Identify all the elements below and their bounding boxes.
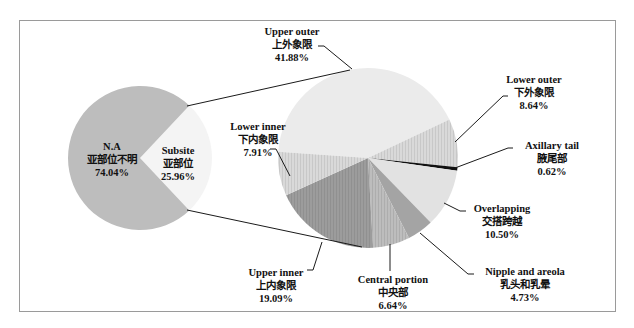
label-lower-outer-pct: 8.64% [494, 99, 574, 112]
label-nipple-areola-en: Nipple and areola [470, 265, 580, 278]
label-overlapping-pct: 10.50% [462, 228, 542, 241]
label-lower-outer-cn: 下外象限 [494, 86, 574, 99]
label-axillary-tail-pct: 0.62% [512, 165, 592, 178]
label-subsite: Subsite 亚部位 25.96% [148, 144, 208, 183]
label-upper-inner: Upper inner 上内象限 19.09% [236, 266, 316, 305]
label-upper-outer-en: Upper outer [252, 25, 332, 38]
label-upper-inner-cn: 上内象限 [236, 279, 316, 292]
label-upper-outer-pct: 41.88% [252, 51, 332, 64]
label-na: N.A 亚部位不明 74.04% [72, 140, 152, 179]
label-overlapping-en: Overlapping [462, 202, 542, 215]
label-upper-outer-cn: 上外象限 [252, 38, 332, 51]
label-lower-outer: Lower outer 下外象限 8.64% [494, 73, 574, 112]
label-overlapping-cn: 交搭跨越 [462, 215, 542, 228]
label-upper-outer: Upper outer 上外象限 41.88% [252, 25, 332, 64]
label-nipple-areola-cn: 乳头和乳晕 [470, 278, 580, 291]
label-axillary-tail: Axillary tail 腋尾部 0.62% [512, 139, 592, 178]
label-upper-inner-pct: 19.09% [236, 292, 316, 305]
label-central-portion: Central portion 中央部 6.64% [348, 273, 438, 312]
label-axillary-tail-cn: 腋尾部 [512, 152, 592, 165]
label-axillary-tail-en: Axillary tail [512, 139, 592, 152]
label-subsite-en: Subsite [148, 144, 208, 157]
label-subsite-cn: 亚部位 [148, 157, 208, 170]
label-upper-inner-en: Upper inner [236, 266, 316, 279]
label-nipple-areola: Nipple and areola 乳头和乳晕 4.73% [470, 265, 580, 304]
label-lower-outer-en: Lower outer [494, 73, 574, 86]
label-lower-inner-pct: 7.91% [218, 146, 298, 159]
label-central-portion-pct: 6.64% [348, 299, 438, 312]
label-nipple-areola-pct: 4.73% [470, 291, 580, 304]
label-lower-inner-en: Lower inner [218, 120, 298, 133]
label-overlapping: Overlapping 交搭跨越 10.50% [462, 202, 542, 241]
subsite-pie [278, 68, 458, 248]
label-central-portion-en: Central portion [348, 273, 438, 286]
label-na-pct: 74.04% [72, 166, 152, 179]
label-subsite-pct: 25.96% [148, 170, 208, 183]
label-na-en: N.A [72, 140, 152, 153]
label-central-portion-cn: 中央部 [348, 286, 438, 299]
leader-axillary-tail [455, 148, 513, 168]
label-lower-inner: Lower inner 下内象限 7.91% [218, 120, 298, 159]
label-lower-inner-cn: 下内象限 [218, 133, 298, 146]
label-na-cn: 亚部位不明 [72, 153, 152, 166]
